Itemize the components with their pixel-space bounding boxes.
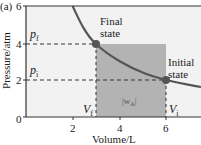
ytick-label-2: 2: [16, 75, 22, 86]
initial-state-label: Initial state: [168, 56, 194, 80]
final-line1: Final: [100, 15, 123, 27]
vf-label: Vf: [83, 103, 93, 115]
xtick-label-2: 2: [70, 123, 76, 134]
ytick-label-0: 0: [16, 114, 22, 125]
vi-label: Vi: [169, 103, 179, 115]
y-axis-title: Pressure/atm: [1, 26, 12, 96]
initial-line2: state: [168, 68, 194, 80]
initial-line1: Initial: [168, 56, 194, 68]
work-sub: A: [130, 101, 134, 107]
ytick-label-6: 6: [16, 1, 22, 12]
panel-label: (a): [0, 1, 12, 12]
work-label: |wA|: [122, 97, 136, 106]
final-state-label: Final state: [100, 15, 123, 39]
vf-sub: f: [90, 109, 93, 118]
final-state-point: [92, 40, 100, 48]
pi-sub: i: [36, 70, 38, 79]
pf-sub: f: [36, 34, 39, 43]
pi-label: pi: [30, 64, 38, 76]
pf-label: pf: [30, 28, 39, 40]
xtick-label-6: 6: [163, 123, 169, 134]
x-axis-title: Volume/L: [92, 134, 136, 145]
final-line2: state: [100, 27, 123, 39]
ytick-label-4: 4: [16, 39, 22, 50]
vi-sub: i: [176, 109, 178, 118]
